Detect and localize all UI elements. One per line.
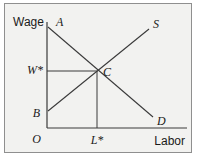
supply-end-label-s: S [153, 17, 159, 31]
demand-start-label-a: A [55, 15, 64, 29]
supply-demand-chart: Wage Labor A S B D W* C L* O [5, 4, 191, 152]
equilibrium-wage-label: W* [27, 63, 43, 77]
figure-frame: Wage Labor A S B D W* C L* O [4, 3, 192, 153]
supply-curve [48, 29, 149, 111]
supply-start-label-b: B [33, 106, 41, 120]
equilibrium-point-label-c: C [103, 65, 112, 79]
origin-label: O [32, 132, 41, 146]
y-axis-label: Wage [13, 15, 44, 29]
equilibrium-labor-label: L* [90, 133, 104, 147]
demand-curve [48, 27, 153, 117]
x-axis-label: Labor [154, 134, 185, 148]
demand-end-label-d: D [156, 114, 166, 128]
